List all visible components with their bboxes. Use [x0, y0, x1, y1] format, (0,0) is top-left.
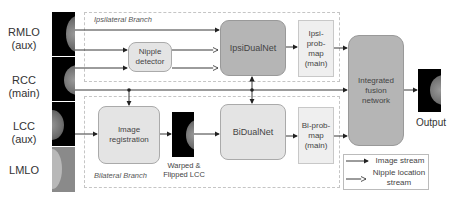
- connector-arrows: [0, 0, 460, 203]
